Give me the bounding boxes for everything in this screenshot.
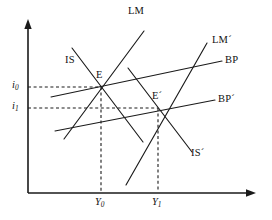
guide-lines-group [28, 87, 158, 192]
curve-is-prime [128, 68, 192, 152]
axis-tick-y1-subscript: 1 [158, 200, 162, 209]
axis-tick-i1-subscript: 1 [15, 104, 19, 113]
axis-tick-i0: i0 [12, 80, 19, 91]
curve-label-lm: LM [128, 6, 144, 17]
point-label-e: E [96, 70, 102, 81]
curve-is [72, 48, 143, 142]
axis-tick-y0: Y0 [95, 197, 105, 208]
axis-tick-i0-subscript: 0 [15, 83, 19, 92]
figure-canvas [0, 0, 272, 220]
axis-tick-y1: Y1 [152, 197, 162, 208]
curve-label-lm-prime: LM´ [212, 35, 232, 46]
vertical-axis-arrow-icon [24, 19, 31, 29]
axis-tick-y0-subscript: 0 [101, 200, 105, 209]
curve-label-bp: BP [225, 55, 238, 66]
is-lm-bp-figure: LM LM´ BP BP´ IS IS´ E E´ i0 i1 Y0 Y1 [0, 0, 272, 220]
point-label-e-prime: E´ [152, 91, 162, 102]
curve-label-is-prime: IS´ [191, 148, 204, 159]
curve-lm-prime [126, 43, 207, 185]
curve-label-is: IS [65, 55, 75, 66]
axis-tick-i1: i1 [12, 101, 19, 112]
horizontal-axis-arrow-icon [246, 189, 256, 196]
curve-label-bp-prime: BP´ [218, 94, 235, 105]
curve-lm [64, 31, 144, 139]
curve-bp-prime [55, 100, 215, 131]
